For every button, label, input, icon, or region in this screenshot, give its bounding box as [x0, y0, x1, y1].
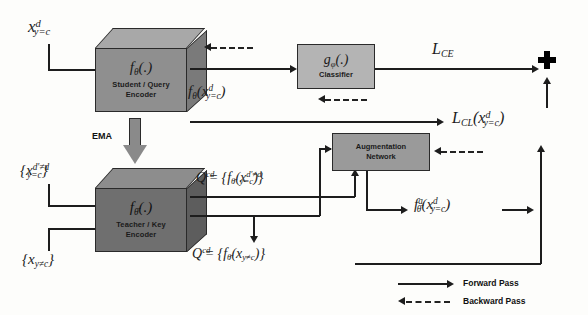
- right-rail-vertical: [540, 150, 542, 264]
- arrowhead-augmented-feature-to-rail: [527, 206, 534, 214]
- label-augmented-feature: faθ̄(xdy=c): [414, 197, 450, 214]
- legend-forward-label: Forward Pass: [463, 278, 519, 288]
- label-teacher-input-negative: {xy≠c}: [22, 252, 54, 269]
- arrowhead-augmentation-output: [401, 206, 408, 214]
- label-queue-negative: Qcd− = {fθ̄(xy≠c)}: [192, 246, 265, 262]
- arrow-classifier-to-sum: [375, 68, 535, 70]
- student-encoder-caption-line2: Encoder: [126, 90, 157, 100]
- arrow-student-input-vertical: [48, 44, 50, 70]
- augmentation-caption-line1: Augmentation: [356, 142, 406, 152]
- arrowhead-loss-cl-to-sum: [543, 77, 551, 84]
- classifier-block[interactable]: gφ(.) Classifier: [297, 44, 375, 89]
- arrow-teacher-neg-vertical: [48, 229, 50, 251]
- classifier-function: gφ(.): [324, 53, 349, 68]
- legend-forward-line: [398, 283, 450, 285]
- arrow-teacher-neg-horizontal: [48, 228, 96, 230]
- arrow-loss-cl-to-sum: [546, 80, 548, 108]
- classifier-caption: Classifier: [319, 70, 353, 80]
- arrow-queue-neg-to-rail: [355, 263, 541, 265]
- arrow-augmentation-entry: [319, 148, 331, 150]
- label-loss-ce: LCE: [432, 41, 454, 59]
- teacher-encoder-function: fθ̄(.): [130, 200, 153, 217]
- arrow-queue-neg-branch: [190, 215, 254, 217]
- label-teacher-input-positive: {xd′≠dy=c}: [20, 163, 48, 180]
- arrowhead-student-to-loss-cl: [437, 118, 444, 126]
- arrow-augmentation-output-right: [366, 209, 404, 211]
- label-loss-cl: LCL(xdy=c): [452, 110, 504, 128]
- backward-pass-to-classifier: [325, 99, 367, 101]
- teacher-encoder-caption-line2: Encoder: [126, 230, 157, 240]
- ema-block-arrow: [123, 118, 147, 164]
- student-encoder-function: fθ(.): [130, 60, 153, 77]
- arrow-augmented-feature-to-rail: [502, 209, 530, 211]
- arrowhead-backward-classifier: [318, 95, 325, 103]
- student-encoder-caption-line1: Student / Query: [112, 80, 169, 90]
- arrow-teacher-to-augmentation-up: [319, 148, 321, 216]
- arrow-queue-pos-up: [354, 174, 356, 197]
- label-student-input: xdy=c: [28, 18, 50, 38]
- arrowhead-student-to-classifier: [290, 65, 297, 73]
- arrow-teacher-pos-horizontal: [48, 205, 96, 207]
- label-queue-positive: Qcd+ = {fθ̄(xd′≠dy=c)}: [196, 170, 263, 186]
- arrow-student-to-loss-cl: [190, 121, 440, 123]
- arrow-augmentation-output-down: [366, 171, 368, 210]
- backward-pass-to-augmentation: [441, 151, 483, 153]
- sum-plus-symbol: [538, 51, 556, 69]
- legend-backward-arrowhead: [398, 297, 405, 305]
- arrowhead-backward-student: [204, 43, 211, 51]
- label-ema: EMA: [92, 131, 112, 141]
- arrowhead-queue-neg: [250, 236, 258, 243]
- arrow-teacher-to-queue-pos: [190, 196, 355, 198]
- arrow-teacher-pos-vertical: [48, 184, 50, 206]
- arrowhead-backward-augmentation: [434, 147, 441, 155]
- backward-pass-to-student: [211, 47, 253, 49]
- legend-forward-arrowhead: [447, 280, 454, 288]
- arrowhead-right-rail: [537, 145, 545, 152]
- augmentation-caption-line2: Network: [366, 152, 396, 162]
- augmentation-network-block[interactable]: Augmentation Network: [332, 133, 430, 171]
- legend-backward-line: [406, 301, 450, 303]
- teacher-encoder-front-face: fθ̄(.) Teacher / Key Encoder: [95, 188, 187, 252]
- arrow-queue-neg-down: [253, 216, 255, 238]
- student-encoder-front-face: fθ(.) Student / Query Encoder: [95, 48, 187, 112]
- legend-backward-label: Backward Pass: [463, 296, 525, 306]
- diagram-canvas: xdy=c {xd′≠dy=c} {xy≠c} fθ(.) Student / …: [0, 0, 588, 315]
- label-student-output: fθ(xdy=c): [188, 84, 226, 101]
- arrow-student-to-classifier: [190, 68, 293, 70]
- teacher-encoder-caption-line1: Teacher / Key: [116, 220, 166, 230]
- arrow-student-input-horizontal: [48, 69, 96, 71]
